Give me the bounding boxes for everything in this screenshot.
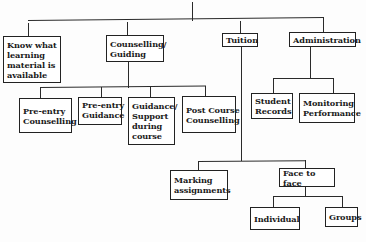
connector-guidance-support [150,87,151,97]
connector-administration-stem [310,47,311,78]
node-administration: Administration [289,32,356,47]
node-face-to-face: Face to face [279,168,335,187]
connector-pre-entry-guidance [101,87,102,97]
node-label: Tuition [226,35,258,45]
counselling-children-bar [40,86,206,89]
face-to-face-children-bar [273,196,343,197]
connector-monitoring [333,78,334,93]
connector-know [28,23,29,36]
node-label: Post Course Counselling [186,105,240,125]
connector-marking [198,162,199,170]
connector-tuition [240,21,241,33]
node-groups: Groups [325,207,358,227]
hierarchy-diagram: Know what learning material is available… [0,0,366,242]
tuition-children-bar [198,160,306,162]
node-post-course-counselling: Post Course Counselling [182,96,236,133]
level1-bar [28,17,324,21]
connector-groups [342,196,343,207]
node-pre-entry-counselling: Pre-entry Counselling [19,98,72,133]
node-know-learning-material: Know what learning material is available [3,36,61,83]
node-label: Student Records [255,96,291,116]
node-label: Counselling/ Guiding [110,39,167,59]
administration-children-bar [273,78,334,79]
connector-administration [323,18,324,32]
node-label: Individual [254,214,300,224]
node-label: Groups [329,212,361,222]
node-individual: Individual [250,207,300,230]
node-marking-assignments: Marking assignments [170,170,228,200]
node-pre-entry-guidance: Pre-entry Guidance [78,97,122,125]
node-label: Administration [293,35,361,45]
connector-post-course [205,86,206,96]
node-label: Guidance/ Support during course [132,101,177,141]
node-guidance-support-during-course: Guidance/ Support during course [128,97,175,145]
node-monitoring-performance: Monitoring Performance [299,93,355,123]
connector-student-records [273,78,274,93]
node-tuition: Tuition [222,33,258,47]
node-label: Pre-entry Guidance [82,100,124,120]
node-label: Marking assignments [174,175,230,195]
node-counselling-guiding: Counselling/ Guiding [106,35,164,62]
node-label: Pre-entry Counselling [23,106,77,126]
node-label: Face to face [283,168,331,188]
connector-individual [273,196,274,207]
connector-pre-entry-counselling [40,88,41,98]
node-student-records: Student Records [251,93,293,119]
connector-tuition-stem [241,47,242,161]
node-label: Know what learning material is available [7,40,57,80]
connector-counselling [127,22,128,35]
node-label: Monitoring Performance [303,98,361,118]
connector-counselling-stem [128,62,129,88]
